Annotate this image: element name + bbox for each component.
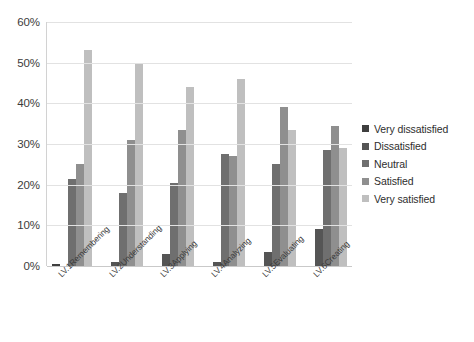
gridline — [47, 63, 352, 64]
gridline — [47, 22, 352, 23]
bar — [323, 150, 331, 266]
x-tick: LV.5Evaluating — [250, 266, 301, 342]
x-axis: LV.1RememberingLV.2UnderstandingLV.3Appl… — [46, 266, 352, 342]
gridline — [47, 185, 352, 186]
legend-swatch-icon — [362, 125, 369, 132]
bar — [272, 164, 280, 266]
bar-chart: 60%50%40%30%20%10%0% LV.1RememberingLV.2… — [0, 0, 474, 342]
y-tick-label: 30% — [17, 138, 40, 150]
x-tick: LV.3Applying — [148, 266, 199, 342]
bar — [280, 107, 288, 266]
legend-item: Very dissatisfied — [362, 120, 472, 138]
gridline — [47, 225, 352, 226]
legend-item: Very satisfied — [362, 190, 472, 208]
gridline — [47, 144, 352, 145]
legend-label: Dissatisfied — [374, 140, 427, 152]
legend-swatch-icon — [362, 195, 369, 202]
x-tick: LV.1Remembering — [46, 266, 97, 342]
legend-item: Neutral — [362, 155, 472, 173]
plot-area — [46, 22, 352, 266]
y-axis: 60%50%40%30%20%10%0% — [0, 22, 44, 266]
legend-label: Very satisfied — [374, 193, 435, 205]
legend: Very dissatisfiedDissatisfiedNeutralSati… — [362, 120, 472, 208]
bar — [221, 154, 229, 266]
y-tick-label: 60% — [17, 16, 40, 28]
x-tick: LV.6Creating — [301, 266, 352, 342]
gridline — [47, 103, 352, 104]
legend-label: Satisfied — [374, 175, 413, 187]
legend-swatch-icon — [362, 178, 369, 185]
legend-label: Very dissatisfied — [374, 123, 448, 135]
y-tick-label: 20% — [17, 179, 40, 191]
y-tick-label: 40% — [17, 97, 40, 109]
legend-item: Satisfied — [362, 173, 472, 191]
y-tick-label: 10% — [17, 219, 40, 231]
legend-swatch-icon — [362, 160, 369, 167]
x-tick: LV.4Analyzing — [199, 266, 250, 342]
y-tick-label: 0% — [24, 260, 40, 272]
bar — [84, 50, 92, 266]
legend-label: Neutral — [374, 158, 407, 170]
legend-swatch-icon — [362, 143, 369, 150]
legend-item: Dissatisfied — [362, 138, 472, 156]
x-tick: LV.2Understanding — [97, 266, 148, 342]
y-tick-label: 50% — [17, 57, 40, 69]
